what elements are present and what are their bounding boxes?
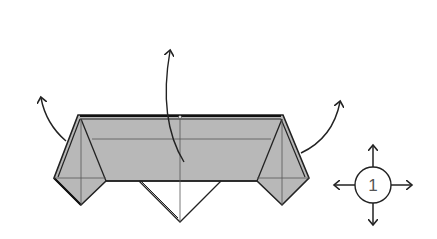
symbol-label: 1: [368, 176, 377, 195]
open-out-symbol: 1: [335, 146, 411, 224]
unfold-right-flap-arrow: [301, 102, 340, 153]
paper-model: [54, 115, 309, 222]
origami-diagram: 1: [0, 0, 437, 239]
unfold-left-flap-arrow: [41, 98, 66, 141]
